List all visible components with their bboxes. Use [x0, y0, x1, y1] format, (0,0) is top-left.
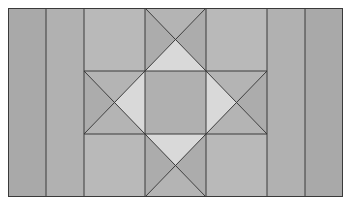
corner-bottom-right	[206, 134, 267, 197]
inner-left-column	[46, 8, 84, 197]
outer-right-column	[305, 8, 343, 197]
corner-top-left	[84, 8, 145, 71]
inner-right-column	[267, 8, 305, 197]
corner-top-right	[206, 8, 267, 71]
quilt-block-diagram	[0, 0, 351, 207]
center-square	[145, 71, 206, 134]
corner-bottom-left	[84, 134, 145, 197]
outer-left-column	[8, 8, 46, 197]
